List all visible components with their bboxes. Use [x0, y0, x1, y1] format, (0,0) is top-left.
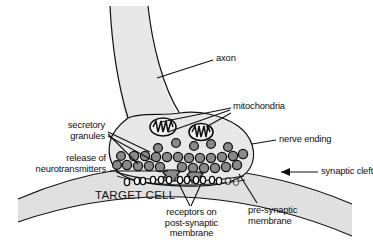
vesicle: [224, 143, 233, 152]
receptor: [150, 176, 155, 183]
vesicle: [232, 160, 241, 169]
receptor: [209, 176, 214, 183]
vesicle: [122, 160, 131, 169]
label-secretory-granules: secretory granules: [0, 120, 105, 141]
label-secretory-granules-line1: secretory: [0, 120, 105, 131]
label-presynaptic-line2: membrane: [248, 216, 297, 227]
receptor: [193, 176, 198, 183]
vesicle: [199, 163, 208, 172]
vesicle: [184, 153, 193, 162]
label-synaptic-cleft: synaptic cleft: [321, 166, 373, 177]
vesicle: [188, 163, 197, 172]
vesicle: [155, 162, 164, 171]
vesicle: [238, 149, 247, 158]
receptor: [124, 178, 129, 185]
label-release-neurotransmitters: release of neurotransmitters: [0, 153, 106, 174]
vesicle: [133, 161, 142, 170]
vesicle: [144, 161, 153, 170]
vesicle: [172, 139, 181, 148]
label-target-cell: TARGET CELL: [95, 190, 175, 201]
vesicle: [162, 152, 171, 161]
leader-synaptic-cleft: [281, 168, 318, 176]
label-release-line2: neurotransmitters: [0, 164, 106, 175]
vesicle: [217, 152, 226, 161]
receptor: [166, 176, 171, 183]
receptor: [216, 177, 221, 184]
vesicle: [221, 162, 230, 171]
label-receptors-line3: membrane: [143, 228, 240, 239]
label-nerve-ending: nerve ending: [279, 134, 331, 145]
mitochondrion-left: [150, 118, 176, 136]
leader-nerve-ending: [252, 140, 276, 144]
vesicle: [210, 163, 219, 172]
receptor: [233, 179, 238, 186]
receptor: [140, 177, 145, 184]
vesicle: [228, 151, 237, 160]
vesicle: [129, 151, 138, 160]
label-receptors-post-synaptic: receptors on post-synaptic membrane: [143, 207, 240, 239]
label-secretory-granules-line2: granules: [0, 131, 105, 142]
label-release-line1: release of: [0, 153, 106, 164]
receptor: [200, 176, 205, 183]
receptor: [184, 176, 189, 183]
receptor: [134, 177, 139, 184]
vesicle: [195, 153, 204, 162]
receptor: [225, 178, 230, 185]
label-mitochondria: mitochondria: [233, 101, 285, 112]
vesicle: [154, 144, 163, 153]
label-pre-synaptic-membrane: pre-synaptic membrane: [248, 205, 297, 226]
label-presynaptic-line1: pre-synaptic: [248, 205, 297, 216]
receptor: [158, 176, 163, 183]
label-receptors-line1: receptors on: [143, 207, 240, 218]
mitochondrion-right: [189, 124, 213, 141]
vesicle: [113, 161, 122, 170]
vesicle: [151, 152, 160, 161]
axon-body: [110, 6, 180, 120]
vesicle: [177, 162, 186, 171]
leader-axon: [157, 60, 213, 78]
receptor: [177, 176, 182, 183]
label-axon: axon: [216, 53, 236, 64]
vesicle: [173, 152, 182, 161]
vesicle: [190, 142, 199, 151]
vesicle: [117, 152, 126, 161]
vesicle: [207, 140, 216, 149]
vesicle: [206, 153, 215, 162]
